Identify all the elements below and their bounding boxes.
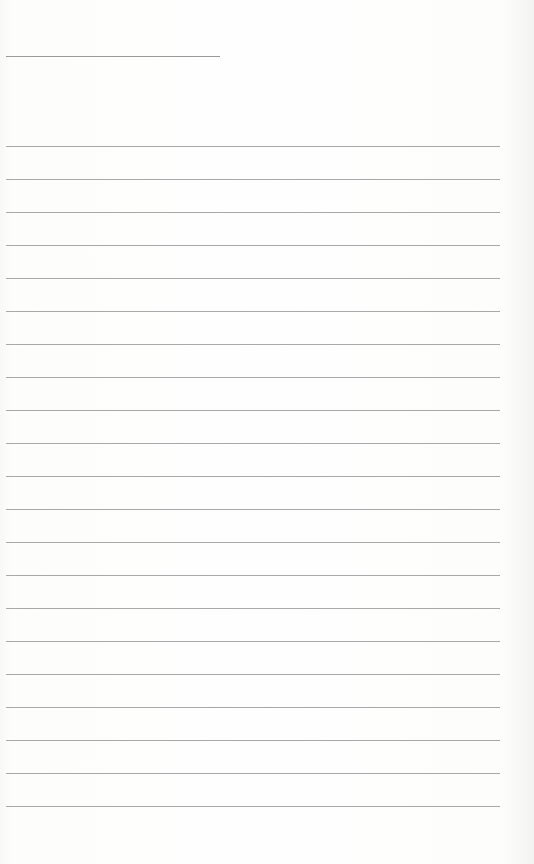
ruled-line bbox=[6, 179, 500, 180]
name-header-line bbox=[6, 56, 220, 57]
ruled-line bbox=[6, 245, 500, 246]
ruled-line bbox=[6, 542, 500, 543]
ruled-line bbox=[6, 443, 500, 444]
ruled-line bbox=[6, 674, 500, 675]
lined-paper-page bbox=[0, 0, 534, 864]
ruled-line bbox=[6, 311, 500, 312]
ruled-line bbox=[6, 410, 500, 411]
ruled-line bbox=[6, 740, 500, 741]
ruled-line bbox=[6, 773, 500, 774]
ruled-line bbox=[6, 608, 500, 609]
ruled-line bbox=[6, 707, 500, 708]
ruled-line bbox=[6, 278, 500, 279]
ruled-line bbox=[6, 806, 500, 807]
ruled-line bbox=[6, 575, 500, 576]
ruled-line bbox=[6, 509, 500, 510]
ruled-line bbox=[6, 344, 500, 345]
ruled-line bbox=[6, 377, 500, 378]
ruled-line bbox=[6, 212, 500, 213]
ruled-line bbox=[6, 641, 500, 642]
ruled-line bbox=[6, 146, 500, 147]
ruled-line bbox=[6, 476, 500, 477]
